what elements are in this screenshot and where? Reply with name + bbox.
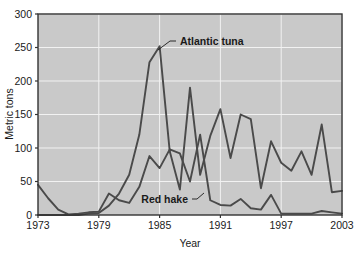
- y-axis-title: Metric tons: [3, 88, 15, 139]
- x-tick-label-1997: 1997: [270, 219, 294, 231]
- atlantic-tuna-label: Atlantic tuna: [180, 35, 244, 47]
- line-chart: 050100150200250300 197319791985199119972…: [0, 0, 358, 257]
- y-tick-label-300: 300: [14, 8, 32, 20]
- x-tick-label-1979: 1979: [87, 219, 111, 231]
- y-tick-label-200: 200: [14, 75, 32, 87]
- y-tick-label-50: 50: [20, 175, 32, 187]
- x-tick-label-1973: 1973: [26, 219, 50, 231]
- chart-figure: 050100150200250300 197319791985199119972…: [0, 0, 358, 257]
- x-axis-title: Year: [179, 237, 201, 249]
- x-tick-label-1991: 1991: [209, 219, 233, 231]
- y-tick-label-250: 250: [14, 41, 32, 53]
- y-tick-label-100: 100: [14, 142, 32, 154]
- red-hake-label: Red hake: [141, 193, 188, 205]
- x-tick-label-1985: 1985: [148, 219, 172, 231]
- y-tick-label-150: 150: [14, 108, 32, 120]
- x-tick-label-2003: 2003: [330, 219, 354, 231]
